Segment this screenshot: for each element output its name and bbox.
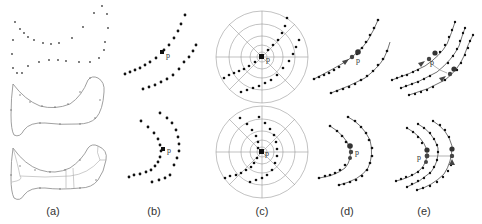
panel-e-point-p-marker-bottom	[424, 147, 429, 152]
panel-e-bottom-chains	[396, 121, 452, 190]
panel-d-triangle-marker	[342, 59, 349, 65]
panel-c-point-p-marker	[259, 54, 264, 59]
panel-e-point-p-marker	[432, 50, 437, 55]
panel-d-point-p-marker	[355, 49, 361, 55]
panel-a	[10, 5, 109, 199]
panel-d-label: (d)	[327, 205, 367, 217]
panel-e: p p	[391, 21, 474, 191]
panel-a-outline-skeleton	[11, 145, 106, 200]
panel-d-neighbor-marker	[350, 55, 354, 59]
panel-e-correspondence-marker-bottom	[449, 146, 454, 151]
panel-a-skeleton-lines	[12, 146, 106, 188]
panel-e-label: (e)	[404, 205, 444, 217]
diagram-canvas: p p	[0, 0, 482, 224]
panel-e-correspondence-marker	[451, 66, 456, 71]
panel-e-neighbor-marker-bottom	[425, 154, 430, 159]
panel-e-triangle-marker	[418, 61, 425, 67]
panel-d-p-label-bottom: p	[355, 148, 359, 157]
panel-a-label: (a)	[33, 205, 73, 217]
panel-e-bottom-points	[395, 120, 452, 191]
panel-a-scatter-points	[11, 5, 109, 74]
panel-b-p-label-bottom: p	[167, 146, 171, 155]
panel-d-point-p-marker-bottom	[347, 143, 353, 149]
panel-e-p-label: p	[430, 58, 434, 67]
panel-a-outline-samples	[10, 77, 100, 189]
panel-c: p p	[216, 11, 308, 198]
panel-e-correspondence-marker-bottom-2	[450, 154, 454, 158]
panel-d: p p	[313, 19, 390, 187]
panel-a-outline	[11, 77, 104, 136]
panel-c-point-p-marker-bottom	[259, 149, 264, 154]
panel-d-neighbor-marker-bottom-2	[348, 156, 352, 160]
panel-b-point-p-marker-bottom	[161, 147, 165, 151]
panel-c-p-label: p	[266, 55, 270, 64]
panel-b-point-p-marker	[160, 50, 164, 54]
panel-b-bottom-points	[128, 112, 181, 184]
panel-d-neighbor-marker-bottom	[349, 150, 353, 154]
panel-d-p-label: p	[356, 56, 360, 65]
panel-e-p-label-bottom: p	[417, 153, 421, 162]
panel-c-p-label-bottom: p	[265, 149, 269, 158]
panel-c-bottom-points	[224, 116, 279, 184]
panel-b: p p	[124, 14, 198, 184]
panel-d-bottom-points	[318, 116, 374, 187]
panel-c-label: (c)	[242, 205, 282, 217]
panel-d-bottom-chains	[319, 117, 372, 185]
panel-e-correspondence-marker-2	[448, 72, 452, 76]
panel-b-label: (b)	[134, 205, 174, 217]
panel-e-neighbor-marker-bottom-2	[424, 160, 428, 164]
panel-b-p-label: p	[166, 51, 170, 60]
